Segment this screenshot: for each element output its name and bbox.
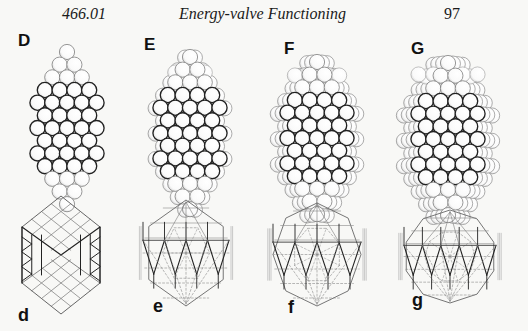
polyhedron-d xyxy=(22,196,100,314)
sphere-packing-G xyxy=(396,55,499,224)
figure-label-f: f xyxy=(288,298,294,316)
sphere-packing-F xyxy=(270,54,364,223)
figure-label-g: g xyxy=(412,291,423,309)
figure-label-F: F xyxy=(284,40,294,57)
figure-label-e: e xyxy=(153,297,163,315)
sphere-packing-D xyxy=(30,44,104,211)
sphere-packing-row xyxy=(30,44,500,224)
figure-label-d: d xyxy=(18,306,29,324)
figure-label-D: D xyxy=(18,32,30,49)
sphere-packing-E xyxy=(148,49,232,217)
figure-label-E: E xyxy=(144,36,155,53)
polyhedron-f xyxy=(268,203,366,306)
figure-sphere-packings-and-polyhedra xyxy=(0,0,528,331)
polyhedron-e xyxy=(139,200,232,306)
figure-label-G: G xyxy=(411,40,424,57)
book-page: 466.01 Energy-valve Functioning 97 D E F… xyxy=(0,0,528,331)
